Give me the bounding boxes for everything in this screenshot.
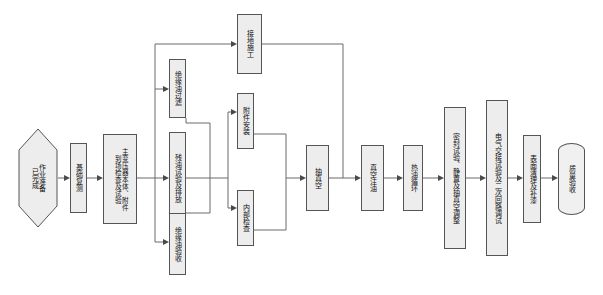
node-vacuum-oil-filling-label: 真空注油: [369, 164, 376, 192]
node-transformer-arrival-check-label: 主变压器本体、附件 到场检查及试验: [113, 148, 127, 211]
node-seal-test-settle-vacuum-adjust[interactable]: 密封试验、静置及抽真空调整: [444, 107, 466, 249]
node-residual-oil-test-drain-label: 残油试验及排放: [174, 154, 181, 203]
node-internal-inspection-label: 内部检查: [242, 204, 249, 232]
node-internal-inspection[interactable]: 内部检查: [237, 190, 254, 246]
node-hot-oil-circulation-label: 热油循环: [409, 164, 416, 192]
node-oil-acceptance-label: 绝缘油验收: [174, 227, 181, 262]
node-transformer-arrival-check[interactable]: 主变压器本体、附件 到场检查及试验: [103, 134, 137, 224]
node-surface-cleaning-repaint[interactable]: 表面清理及补漆: [523, 135, 541, 223]
node-oil-acceptance[interactable]: 绝缘油验收: [169, 213, 186, 275]
node-vacuum-pumping-label: 抽真空: [314, 168, 321, 189]
node-accessory-installation[interactable]: 附件安装: [237, 93, 254, 149]
node-electrical-handover-test[interactable]: 电气交接试验及二次回路调试: [486, 100, 508, 256]
node-vacuum-pumping[interactable]: 抽真空: [306, 145, 329, 211]
flowchart-canvas: 作业准备 已完成 基础复测 主变压器本体、附件 到场检查及试验 接地施工 绝缘油…: [0, 0, 603, 295]
node-oil-filtration[interactable]: 绝缘油过滤: [169, 59, 186, 118]
node-seal-test-settle-vacuum-adjust-label: 密封试验、静置及抽真空调整: [451, 133, 458, 224]
node-start[interactable]: 作业准备 已完成: [18, 128, 58, 228]
node-foundation-retest[interactable]: 基础复测: [70, 143, 87, 213]
node-hot-oil-circulation[interactable]: 热油循环: [403, 145, 423, 211]
node-quality-acceptance-label: 质量验收: [568, 165, 575, 193]
node-start-label: 作业准备 已完成: [18, 128, 58, 228]
node-grounding-construction-label: 接地施工: [246, 30, 253, 58]
node-residual-oil-test-drain[interactable]: 残油试验及排放: [169, 132, 186, 224]
node-quality-acceptance[interactable]: 质量验收: [558, 143, 585, 215]
node-grounding-construction[interactable]: 接地施工: [237, 14, 262, 74]
node-accessory-installation-label: 附件安装: [242, 107, 249, 135]
node-vacuum-oil-filling[interactable]: 真空注油: [361, 145, 384, 211]
node-foundation-retest-label: 基础复测: [75, 164, 82, 192]
node-oil-filtration-label: 绝缘油过滤: [174, 71, 181, 106]
node-surface-cleaning-repaint-label: 表面清理及补漆: [528, 155, 535, 204]
node-electrical-handover-test-label: 电气交接试验及二次回路调试: [493, 133, 500, 224]
connector-layer: [0, 0, 603, 295]
